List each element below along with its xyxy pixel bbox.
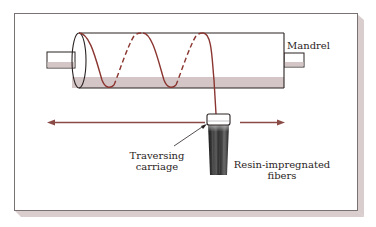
traversing-carriage-label: Traversing carriage bbox=[120, 150, 194, 172]
carriage-label-line1: Traversing bbox=[120, 150, 194, 161]
resin-impregnated-fiber-bundle bbox=[208, 124, 229, 175]
diagram-canvas: Mandrel Traversing carriage Resin-impreg… bbox=[0, 0, 376, 227]
carriage-label-line2: carriage bbox=[120, 161, 194, 172]
filament-winding-diagram bbox=[0, 0, 376, 227]
fibers-label-line1: Resin-impregnated bbox=[230, 159, 334, 170]
mandrel bbox=[72, 33, 284, 88]
mandrel-left-shaft bbox=[47, 52, 75, 68]
mandrel-label: Mandrel bbox=[287, 40, 330, 51]
mandrel-label-text: Mandrel bbox=[287, 40, 330, 51]
mandrel-right-shaft bbox=[284, 53, 304, 67]
fibers-label: Resin-impregnated fibers bbox=[230, 159, 334, 181]
traversing-carriage bbox=[207, 114, 230, 125]
fibers-label-line2: fibers bbox=[230, 170, 334, 181]
